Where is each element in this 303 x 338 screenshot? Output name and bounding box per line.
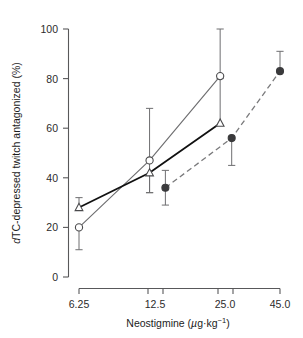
filled-circle-datapoint bbox=[228, 135, 235, 142]
x-axis-title-exponent: −1 bbox=[218, 316, 227, 325]
x-tick-labels: 6.25 12.5 25.0 45.0 bbox=[69, 298, 291, 310]
y-ticklabel-60: 60 bbox=[46, 122, 58, 134]
open-circle-series-errorbar bbox=[217, 29, 224, 76]
y-ticklabel-40: 40 bbox=[46, 172, 58, 184]
open-triangle-series-errorbar bbox=[217, 79, 224, 124]
y-axis-title-main: TC-depressed twitch antagonized (%) bbox=[10, 62, 22, 238]
y-ticklabel-20: 20 bbox=[46, 221, 58, 233]
x-axis-title: Neostigmine (µg·kg−1) bbox=[126, 316, 229, 329]
x-ticklabel-12-5: 12.5 bbox=[145, 298, 166, 310]
filled-circle-series-errorbar bbox=[228, 138, 235, 165]
filled-circle-datapoint bbox=[162, 184, 169, 191]
x-ticklabel-25-0: 25.0 bbox=[215, 298, 236, 310]
open-triangle-datapoint bbox=[216, 119, 224, 126]
open-circle-datapoint bbox=[146, 157, 153, 164]
x-ticklabel-45-0: 45.0 bbox=[270, 298, 291, 310]
filled-circle-datapoint bbox=[277, 68, 284, 75]
y-ticklabel-100: 100 bbox=[40, 23, 58, 35]
open-triangle-datapoint bbox=[146, 169, 154, 176]
y-tick-labels: 100 80 60 40 20 0 bbox=[40, 23, 58, 283]
dose-response-plot: 100 80 60 40 20 0 6.25 12.5 25.0 45.0 Ne… bbox=[0, 0, 303, 338]
x-axis-title-unit: g·kg bbox=[197, 317, 218, 329]
chart-figure: 100 80 60 40 20 0 6.25 12.5 25.0 45.0 Ne… bbox=[0, 0, 303, 338]
plot-data-layer bbox=[75, 29, 283, 250]
y-axis bbox=[63, 29, 69, 277]
y-ticklabel-0: 0 bbox=[52, 271, 58, 283]
x-axis-title-main: Neostigmine ( bbox=[126, 317, 191, 329]
x-axis bbox=[79, 289, 280, 295]
open-circle-datapoint bbox=[75, 224, 82, 231]
open-circle-datapoint bbox=[217, 73, 224, 80]
x-axis-title-close: ) bbox=[226, 317, 230, 329]
filled-circle-series-line bbox=[165, 71, 280, 188]
y-axis-title: dTC-depressed twitch antagonized (%) bbox=[10, 62, 22, 244]
x-ticklabel-6-25: 6.25 bbox=[69, 298, 90, 310]
y-ticklabel-80: 80 bbox=[46, 73, 58, 85]
